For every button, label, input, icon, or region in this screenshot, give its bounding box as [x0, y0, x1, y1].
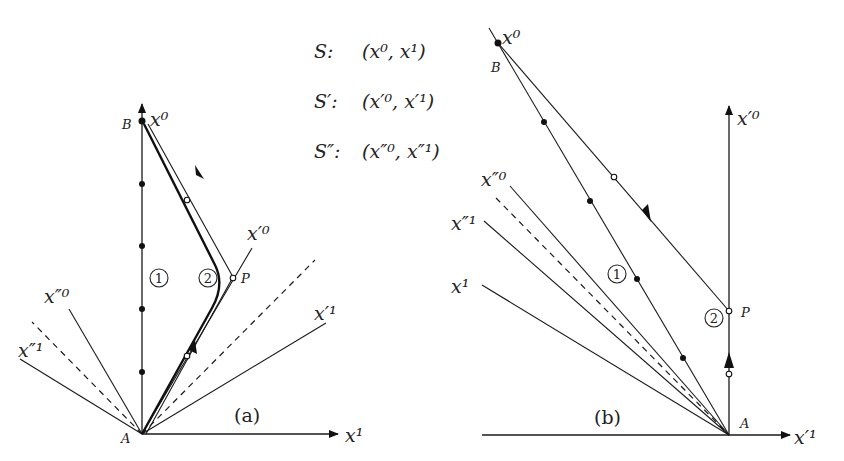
worldline-1-label: 1 — [613, 267, 621, 282]
worldline-1-label: 1 — [155, 271, 163, 286]
legend-sprime-coords: (x′⁰, x′¹) — [362, 90, 434, 112]
x0-axis — [489, 28, 729, 435]
panel-b: x⁰ B x′⁰ x″⁰ x″¹ x¹ P A x′¹ (b) 1 2 — [451, 26, 817, 448]
label-x1: x¹ — [345, 424, 363, 446]
spacetime-diagram: S: (x⁰, x¹) S′: (x′⁰, x′¹) S″: (x″⁰, x″¹… — [0, 0, 844, 461]
event-P — [230, 275, 236, 281]
label-B: B — [121, 117, 132, 132]
clock-tick — [139, 243, 145, 249]
label-xpp0: x″⁰ — [44, 285, 70, 307]
clock-tick — [139, 181, 145, 187]
label-x1: x¹ — [451, 275, 469, 297]
arrow-up-icon — [724, 352, 734, 368]
clock-tick — [587, 198, 593, 204]
label-P: P — [740, 305, 750, 320]
legend-sdouble-coords: (x″⁰, x″¹) — [362, 140, 440, 162]
panel-a: x⁰ B A P x¹ x′⁰ x′¹ x″⁰ x″¹ (a) 1 2 — [18, 104, 363, 446]
clock-tick — [541, 119, 547, 125]
clock-tick — [680, 355, 686, 361]
caption-a: (a) — [234, 404, 260, 426]
event-B — [495, 40, 502, 47]
caption-b: (b) — [594, 406, 621, 428]
label-xp0: x′⁰ — [247, 222, 270, 244]
arrow-down-icon — [642, 204, 651, 222]
clock-tick — [139, 369, 145, 375]
label-xp0: x′⁰ — [737, 107, 760, 129]
clock-tick-open — [726, 371, 732, 377]
label-x0: x⁰ — [502, 26, 521, 48]
clock-tick-open — [611, 174, 617, 180]
legend-s-name: S: — [314, 40, 333, 62]
xdouble0-axis — [510, 186, 729, 435]
legend: S: (x⁰, x¹) S′: (x′⁰, x′¹) S″: (x″⁰, x″¹… — [314, 40, 440, 162]
label-xpp1: x″¹ — [18, 339, 43, 361]
event-P — [726, 308, 732, 314]
clock-tick — [139, 306, 145, 312]
light-cone — [496, 198, 729, 435]
arrow-up-icon — [195, 165, 204, 179]
legend-s-coords: (x⁰, x¹) — [362, 40, 426, 62]
worldline-2-label: 2 — [204, 271, 212, 286]
xdouble1-axis — [20, 359, 142, 434]
label-xpp1: x″¹ — [451, 212, 476, 234]
label-xp1: x′¹ — [314, 302, 337, 324]
label-B: B — [490, 60, 501, 75]
label-xpp0: x″⁰ — [481, 168, 507, 190]
xdouble1-axis — [484, 221, 729, 435]
label-x0: x⁰ — [150, 108, 169, 130]
label-P: P — [240, 271, 250, 286]
clock-tick — [634, 276, 640, 282]
clock-tick-open — [184, 353, 190, 359]
worldline-2-label: 2 — [710, 311, 718, 326]
label-A: A — [120, 431, 130, 446]
legend-sdouble-name: S″: — [314, 140, 341, 162]
clock-tick-open — [184, 197, 190, 203]
label-xp1: x′¹ — [794, 426, 817, 448]
label-A: A — [739, 416, 749, 431]
legend-sprime-name: S′: — [314, 90, 338, 112]
event-B — [139, 118, 146, 125]
